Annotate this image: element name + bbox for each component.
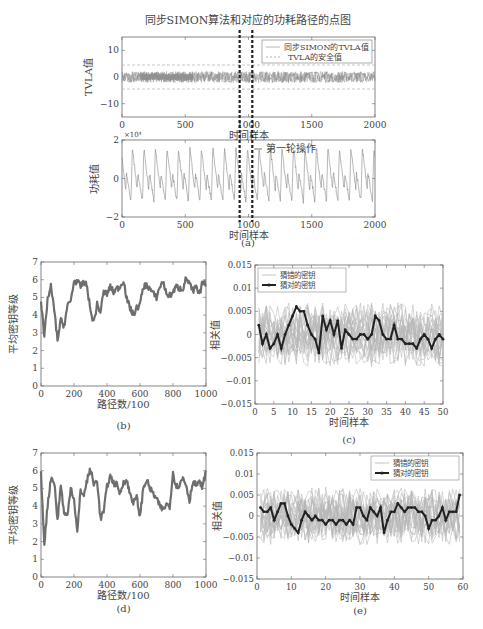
x-tick-label: 40 (389, 582, 400, 592)
x-tick-label: 200 (65, 389, 82, 399)
y-tick-label: −0.01 (228, 553, 254, 563)
correct-key-marker (324, 523, 327, 526)
correct-key-marker (362, 515, 365, 518)
x-tick-label: 10 (287, 407, 298, 417)
correct-key-marker (441, 506, 444, 509)
correct-key-marker (444, 519, 447, 522)
correct-key-marker (351, 338, 354, 341)
correct-key-marker (369, 506, 372, 509)
correct-key-marker (419, 338, 422, 341)
correct-key-marker (318, 352, 321, 355)
correct-key-marker (306, 324, 309, 327)
correct-key-marker (284, 333, 287, 336)
correct-key-marker (451, 510, 454, 513)
x-tick-label: 0 (38, 580, 44, 590)
correct-key-marker (307, 515, 310, 518)
correct-key-marker (390, 510, 393, 513)
correct-key-marker (269, 506, 272, 509)
x-tick-label: 35 (381, 407, 392, 417)
panel-label-a: (a) (241, 237, 255, 248)
correct-key-marker (348, 519, 351, 522)
correct-key-marker (359, 506, 362, 509)
correct-key-marker (311, 519, 314, 522)
x-tick-label: 200 (65, 580, 82, 590)
correct-key-marker (455, 510, 458, 513)
correct-key-marker (396, 502, 399, 505)
y-tick-label: 7 (32, 257, 38, 267)
correct-key-marker (325, 328, 328, 331)
y-tick-label: 0.015 (230, 448, 254, 458)
x-tick-label: 40 (400, 407, 411, 417)
panel-label-c: (c) (342, 434, 356, 445)
correct-key-marker (265, 333, 268, 336)
correct-key-marker (259, 506, 262, 509)
y-tick-label: 0 (32, 381, 38, 391)
y-tick-label: 0.01 (235, 469, 254, 479)
correct-key-marker (385, 338, 388, 341)
x-tick-label: 20 (320, 582, 331, 592)
y-axis-label: 相关值 (211, 501, 223, 531)
y-axis-label: 功耗值 (88, 164, 100, 194)
x-axis-label: 时间样本 (340, 591, 380, 603)
x-tick-label: 45 (419, 407, 430, 417)
x-tick-label: 800 (164, 580, 181, 590)
y-tick-label: 4 (32, 501, 38, 511)
legend-label-threshold: TVLA的安全值 (288, 52, 342, 62)
correct-key-marker (293, 527, 296, 530)
x-tick-label: 1000 (195, 389, 218, 399)
correct-key-marker (431, 519, 434, 522)
y-tick-label: 4 (32, 310, 38, 320)
correct-key-marker (276, 333, 279, 336)
legend-label-tvla: 同步SIMON的TVLA值 (284, 42, 369, 52)
y-tick-label: 0.005 (228, 306, 252, 316)
correct-key-marker (370, 333, 373, 336)
correct-key-marker (410, 506, 413, 509)
y-tick-label: 2 (32, 346, 38, 356)
x-tick-label: 25 (344, 407, 355, 417)
correct-key-marker (310, 333, 313, 336)
correct-key-marker (283, 502, 286, 505)
panel-label-d: (d) (116, 603, 130, 614)
x-tick-label: 0 (252, 407, 257, 417)
correct-key-marker (393, 510, 396, 513)
correct-key-marker (348, 333, 351, 336)
y-tick-label: 5 (32, 483, 38, 493)
x-tick-label: 15 (306, 407, 317, 417)
correct-key-marker (372, 510, 375, 513)
legend-marker-correct (380, 471, 383, 474)
x-tick-label: 600 (131, 389, 148, 399)
x-axis-label: 路径数/100 (97, 398, 149, 410)
correct-key-marker (280, 502, 283, 505)
correct-key-marker (383, 531, 386, 534)
correct-key-marker (407, 506, 410, 509)
y-tick-label: 10 (108, 45, 120, 55)
correct-key-marker (386, 519, 389, 522)
y-axis-label: 相关值 (209, 320, 221, 350)
correct-key-marker (408, 342, 411, 345)
annotation-first-round: 第一轮操作 (266, 142, 316, 154)
y-tick-label: 3 (32, 519, 38, 529)
correct-key-marker (317, 519, 320, 522)
correct-key-marker (340, 347, 343, 350)
x-axis-label: 时间样本 (329, 416, 369, 428)
legend-label-wrong: 猜错的密钥 (280, 270, 315, 280)
correct-key-marker (379, 506, 382, 509)
correct-key-marker (415, 347, 418, 350)
correct-key-marker (434, 338, 437, 341)
y-tick-label: 0 (247, 330, 252, 340)
correct-key-marker (352, 523, 355, 526)
x-tick-label: 20 (325, 407, 336, 417)
y-tick-label: 2 (113, 135, 119, 145)
y-tick-label: 0 (249, 511, 254, 521)
correct-key-marker (404, 342, 407, 345)
correct-key-marker (335, 523, 338, 526)
y-tick-label: 6 (32, 466, 38, 476)
correct-key-marker (378, 319, 381, 322)
x-tick-label: 0 (38, 389, 44, 399)
y-tick-label: −0.005 (223, 532, 254, 542)
correct-key-marker (365, 519, 368, 522)
x-tick-label: 0 (119, 120, 125, 130)
y-tick-label: 1 (32, 554, 38, 564)
correct-key-marker (297, 531, 300, 534)
correct-key-marker (417, 510, 420, 513)
